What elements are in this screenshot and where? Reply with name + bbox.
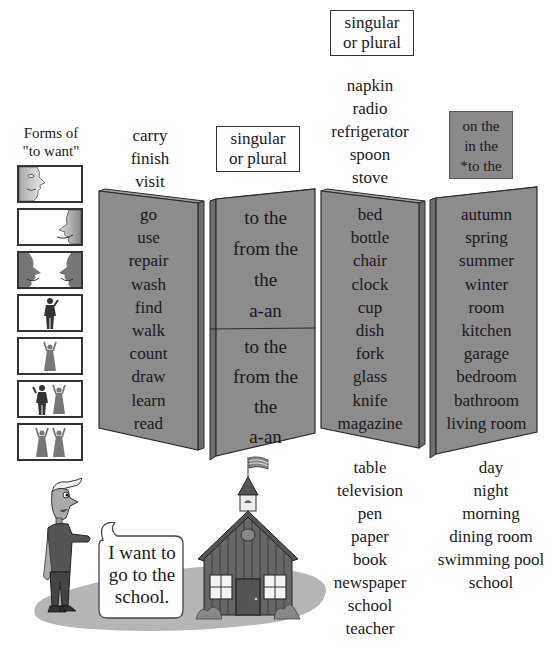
label-line2: or plural (335, 33, 409, 53)
schoolhouse-icon (192, 455, 302, 625)
noun-item: chair (321, 249, 419, 272)
forms-title-line2: "to want" (10, 142, 92, 160)
article-item: from the (216, 233, 315, 264)
two-women-icon (17, 423, 83, 461)
verb-item: go (99, 203, 198, 226)
place-below: swimming pool (425, 548, 557, 571)
preposition-item: in the (450, 136, 512, 156)
verb-item: learn (99, 389, 198, 412)
place-item: garage (436, 342, 537, 365)
noun-below: paper (318, 525, 422, 548)
article-item: from the (216, 362, 315, 392)
noun-item: knife (321, 389, 419, 412)
place-below: day (425, 456, 557, 479)
prepositions-box: on the in the *to the (449, 111, 513, 179)
speech-line: go to the (100, 564, 184, 586)
article-item: the (216, 264, 315, 295)
noun-above: refrigerator (318, 120, 422, 143)
noun-item: clock (321, 273, 419, 296)
place-item: summer (436, 249, 537, 272)
face-left-profile-icon (17, 165, 83, 203)
places-below-list: day night morning dining room swimming p… (425, 456, 557, 594)
article-item: to the (216, 202, 315, 233)
forms-title-line1: Forms of (10, 124, 92, 142)
noun-item: cup (321, 296, 419, 319)
place-item: autumn (436, 203, 537, 226)
speech-line: I want to (100, 542, 184, 564)
speech-bubble-text: I want to go to the school. (100, 542, 184, 608)
verb-item: wash (99, 273, 198, 296)
place-below: night (425, 479, 557, 502)
place-item: kitchen (436, 319, 537, 342)
noun-item: fork (321, 342, 419, 365)
verb-item: count (99, 342, 198, 365)
place-below: morning (425, 502, 557, 525)
noun-above: napkin (318, 74, 422, 97)
article-item: a-an (216, 295, 315, 326)
man-figure-icon (17, 294, 83, 332)
noun-above: radio (318, 97, 422, 120)
noun-item: dish (321, 319, 419, 342)
verb-item: repair (99, 249, 198, 272)
verb-item: draw (99, 365, 198, 388)
place-item: winter (436, 273, 537, 296)
noun-below: table (318, 456, 422, 479)
verb-item: use (99, 226, 198, 249)
verbs-panel: go use repair wash find walk count draw … (98, 188, 210, 460)
forms-of-want-title: Forms of "to want" (10, 124, 92, 160)
noun-below: teacher (318, 617, 422, 640)
noun-below: pen (318, 502, 422, 525)
place-below: school (425, 571, 557, 594)
nouns-singular-plural-label: singular or plural (330, 10, 414, 56)
article-item: the (216, 392, 315, 422)
noun-item: bottle (321, 226, 419, 249)
place-item: living room (436, 412, 537, 435)
articles-singular-plural-label: singular or plural (216, 126, 300, 172)
noun-item: glass (321, 365, 419, 388)
face-right-profile-icon (17, 208, 83, 246)
noun-above: stove (318, 166, 422, 189)
label-line1: singular (221, 129, 295, 149)
place-item: bedroom (436, 365, 537, 388)
article-item: a-an (216, 422, 315, 452)
speech-line: school. (100, 586, 184, 608)
noun-below: book (318, 548, 422, 571)
woman-figure-icon (17, 337, 83, 375)
places-panel: autumn spring summer winter room kitchen… (429, 186, 541, 461)
place-item: room (436, 296, 537, 319)
man-pointing-icon (38, 478, 98, 618)
verbs-above-list: carry finish visit (100, 124, 200, 193)
noun-below: school (318, 594, 422, 617)
preposition-item: on the (450, 116, 512, 136)
noun-above: spoon (318, 143, 422, 166)
noun-item: magazine (321, 412, 419, 435)
noun-item: bed (321, 203, 419, 226)
two-faces-talking-icon (17, 251, 83, 289)
nouns-below-list: table television pen paper book newspape… (318, 456, 422, 640)
verb-item: read (99, 412, 198, 435)
verb-item: walk (99, 319, 198, 342)
label-line2: or plural (221, 149, 295, 169)
man-and-woman-icon (17, 380, 83, 418)
noun-below: newspaper (318, 571, 422, 594)
place-item: bathroom (436, 389, 537, 412)
verb-item: find (99, 296, 198, 319)
nouns-above-list: napkin radio refrigerator spoon stove (318, 74, 422, 189)
noun-below: television (318, 479, 422, 502)
article-item: to the (216, 332, 315, 362)
label-line1: singular (335, 13, 409, 33)
verb-above: carry (100, 124, 200, 147)
articles-panel: to the from the the a-an to the from the… (209, 188, 317, 462)
place-item: spring (436, 226, 537, 249)
nouns-panel: bed bottle chair clock cup dish fork gla… (320, 188, 430, 460)
preposition-item: *to the (450, 156, 512, 176)
verb-above: finish (100, 147, 200, 170)
place-below: dining room (425, 525, 557, 548)
